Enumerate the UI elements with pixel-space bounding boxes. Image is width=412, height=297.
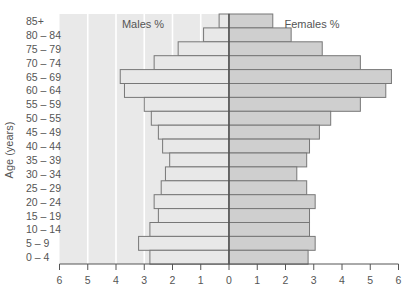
male-bar bbox=[154, 195, 229, 209]
females-legend-label: Females % bbox=[284, 18, 339, 30]
male-bar bbox=[161, 181, 229, 195]
age-group-label: 30 – 34 bbox=[26, 168, 61, 180]
x-tick-label: 0 bbox=[226, 274, 232, 286]
male-bar bbox=[139, 236, 229, 250]
age-group-label: 25 – 29 bbox=[26, 182, 61, 194]
age-group-label: 50 – 55 bbox=[26, 112, 61, 124]
female-bar bbox=[229, 28, 291, 42]
male-bar bbox=[163, 139, 229, 153]
male-bar bbox=[219, 14, 229, 28]
male-bar bbox=[158, 209, 229, 223]
age-group-label: 15 – 19 bbox=[26, 210, 61, 222]
female-bar bbox=[229, 42, 322, 56]
male-bar bbox=[178, 42, 229, 56]
female-bar bbox=[229, 223, 310, 237]
x-tick-label: 6 bbox=[57, 274, 63, 286]
y-axis-label: Age (years) bbox=[3, 122, 15, 179]
x-tick-label: 1 bbox=[254, 274, 260, 286]
age-group-label: 45 – 49 bbox=[26, 126, 61, 138]
female-bar bbox=[229, 195, 315, 209]
age-group-label: 0 – 4 bbox=[26, 251, 50, 263]
x-tick-label: 4 bbox=[339, 274, 345, 286]
female-bar bbox=[229, 236, 315, 250]
male-bar bbox=[150, 223, 229, 237]
x-tick-label: 2 bbox=[170, 274, 176, 286]
age-group-label: 35 – 39 bbox=[26, 154, 61, 166]
age-group-label: 75 – 79 bbox=[26, 43, 61, 55]
male-bar bbox=[204, 28, 229, 42]
age-group-label: 85+ bbox=[26, 15, 44, 27]
males-legend-label: Males % bbox=[122, 18, 164, 30]
x-tick-label: 3 bbox=[141, 274, 147, 286]
age-group-label: 10 – 14 bbox=[26, 223, 61, 235]
age-group-label: 65 – 69 bbox=[26, 71, 61, 83]
male-bar bbox=[154, 56, 229, 70]
x-tick-label: 2 bbox=[283, 274, 289, 286]
female-bar bbox=[229, 84, 386, 98]
male-bar bbox=[158, 125, 229, 139]
female-bar bbox=[229, 139, 310, 153]
male-bar bbox=[124, 84, 229, 98]
male-bar bbox=[151, 111, 229, 125]
age-group-label: 20 – 24 bbox=[26, 196, 61, 208]
age-group-labels: 85+80 – 8475 – 7970 – 7465 – 6960 – 6455… bbox=[26, 15, 61, 263]
x-tick-label: 5 bbox=[367, 274, 373, 286]
age-group-label: 60 – 64 bbox=[26, 84, 61, 96]
age-group-label: 40 – 44 bbox=[26, 140, 61, 152]
x-axis: 6543210123456 bbox=[57, 264, 402, 286]
x-tick-label: 5 bbox=[85, 274, 91, 286]
female-bar bbox=[229, 209, 310, 223]
age-group-label: 70 – 74 bbox=[26, 57, 61, 69]
female-bar bbox=[229, 111, 331, 125]
male-bar bbox=[144, 97, 229, 111]
x-tick-label: 6 bbox=[396, 274, 402, 286]
female-bar bbox=[229, 153, 307, 167]
x-tick-label: 1 bbox=[198, 274, 204, 286]
male-bar bbox=[165, 167, 229, 181]
x-tick-label: 4 bbox=[113, 274, 119, 286]
male-bar bbox=[120, 70, 229, 84]
female-bar bbox=[229, 167, 297, 181]
female-bar bbox=[229, 14, 273, 28]
age-group-label: 5 – 9 bbox=[26, 237, 50, 249]
age-group-label: 80 – 84 bbox=[26, 29, 61, 41]
male-bar bbox=[150, 250, 229, 264]
x-tick-label: 3 bbox=[311, 274, 317, 286]
female-bar bbox=[229, 125, 319, 139]
age-group-label: 55 – 59 bbox=[26, 98, 61, 110]
male-bar bbox=[170, 153, 229, 167]
female-bar bbox=[229, 97, 360, 111]
female-bar bbox=[229, 70, 391, 84]
population-pyramid-chart: 6543210123456 85+80 – 8475 – 7970 – 7465… bbox=[0, 0, 412, 297]
female-bar bbox=[229, 56, 360, 70]
female-bar bbox=[229, 250, 308, 264]
female-bar bbox=[229, 181, 307, 195]
